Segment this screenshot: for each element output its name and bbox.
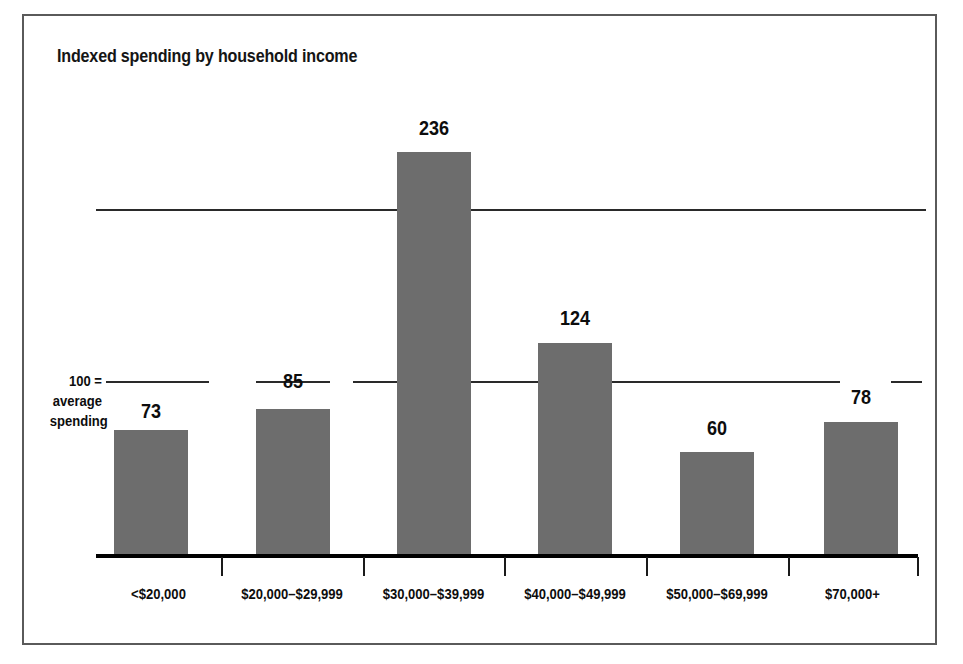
bar-20000-29999 [256, 409, 330, 556]
bars-layer [0, 0, 963, 556]
bar-value-70000-plus: 78 [828, 386, 895, 409]
axis-tick-6 [917, 557, 919, 576]
axis-tick-3 [504, 557, 506, 576]
category-label-40000-49999: $40,000–$49,999 [511, 586, 639, 602]
category-label-20000-29999: $20,000–$29,999 [228, 586, 356, 602]
reference-line-label-line2: average [50, 391, 102, 411]
reference-line-label-line3: spending [50, 411, 102, 431]
bar-lt-20000 [114, 430, 188, 556]
axis-tick-2 [363, 557, 365, 576]
bar-30000-39999 [397, 152, 471, 556]
bar-value-20000-29999: 85 [260, 370, 327, 393]
category-label-50000-69999: $50,000–$69,999 [653, 586, 781, 602]
axis-tick-4 [646, 557, 648, 576]
reference-line-label-line1: 100 = [50, 371, 102, 391]
category-label-70000-plus: $70,000+ [794, 586, 910, 602]
bar-value-50000-69999: 60 [684, 417, 751, 440]
bar-50000-69999 [680, 452, 754, 556]
bar-40000-49999 [538, 343, 612, 556]
chart-figure: Indexed spending by household income 73 … [0, 0, 963, 664]
bar-value-30000-39999: 236 [401, 117, 468, 140]
bar-value-40000-49999: 124 [542, 307, 609, 330]
bar-value-lt-20000: 73 [118, 400, 185, 423]
category-label-lt-20000: <$20,000 [102, 586, 215, 602]
reference-line-label: 100 = average spending [50, 371, 102, 431]
axis-tick-5 [788, 557, 790, 576]
x-axis-baseline [96, 554, 918, 558]
axis-tick-1 [221, 557, 223, 576]
category-label-30000-39999: $30,000–$39,999 [370, 586, 497, 602]
plot-area: 73 85 236 124 60 78 <$20,000 $20,000–$29… [0, 0, 963, 664]
bar-70000-plus [824, 422, 898, 556]
